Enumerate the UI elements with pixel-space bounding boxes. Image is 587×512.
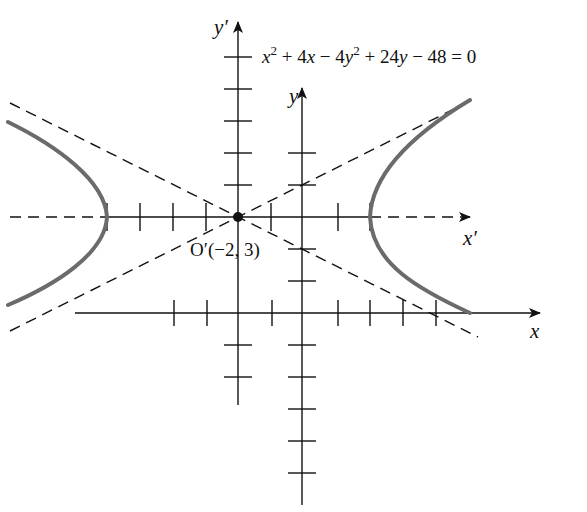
hyperbola-equation: x2 + 4x − 4y2 + 24y − 48 = 0 xyxy=(261,43,476,67)
y-label: y xyxy=(287,84,299,108)
hyperbola xyxy=(8,100,470,313)
hyperbola-right-branch xyxy=(370,100,470,313)
center-point xyxy=(233,212,243,222)
asymptote-negative-slope xyxy=(10,103,478,337)
x-prime-label: x′ xyxy=(462,226,477,250)
origin-prime-label: O′(−2, 3) xyxy=(190,239,260,261)
hyperbola-left-branch xyxy=(8,122,107,305)
x-label: x xyxy=(529,319,540,343)
y-axis xyxy=(288,88,316,505)
asymptotes xyxy=(10,101,478,337)
y-prime-label: y′ xyxy=(212,15,228,39)
hyperbola-diagram: y′ x′ y x O′(−2, 3) x2 + 4x − 4y2 + 24y … xyxy=(0,0,587,512)
